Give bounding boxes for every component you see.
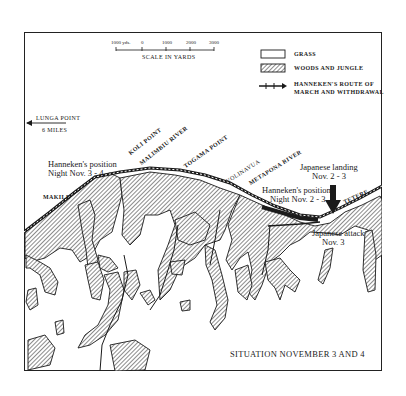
label-makile: MAKILE <box>43 194 70 200</box>
map-title: SITUATION NOVEMBER 3 AND 4 <box>230 350 365 359</box>
scale-tick-label: 1000 yds. <box>111 40 130 45</box>
legend-woods-label: WOODS AND JUNGLE <box>294 65 363 71</box>
legend-route-label-1: HANNEKEN'S ROUTE OF <box>294 81 374 87</box>
scale-tick-label: 0 <box>141 40 144 45</box>
scale-tick-label: 3000 <box>209 40 219 45</box>
label-lunga-distance: 6 MILES <box>42 127 67 133</box>
scale-bar <box>116 47 214 51</box>
scale-tick-label: 2000 <box>186 40 196 45</box>
label-lunga-point: LUNGA POINT <box>36 115 80 121</box>
label-japanese-landing-line2: Nov. 2 - 3 <box>312 172 346 181</box>
label-japanese-attack-line2: Nov. 3 <box>322 238 345 247</box>
legend-route-label-2: MARCH AND WITHDRAWAL <box>294 89 384 95</box>
scale-title: SCALE IN YARDS <box>142 54 195 60</box>
label-hanneken-nov-3-4-line2: Night Nov. 3 - 4 <box>48 169 103 178</box>
legend-grass-swatch <box>261 50 285 58</box>
legend-grass-label: GRASS <box>294 51 316 57</box>
scale-tick-label: 1000 <box>162 40 172 45</box>
legend-route-symbol <box>259 83 287 89</box>
label-hanneken-nov-2-3-line2: Night Nov. 2 - 3 <box>270 195 325 204</box>
legend-woods-swatch <box>261 64 285 72</box>
